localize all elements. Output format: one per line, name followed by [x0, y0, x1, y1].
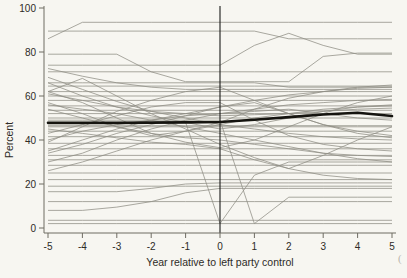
x-tick-label: 1	[252, 241, 258, 252]
x-tick-label: -1	[181, 241, 190, 252]
y-tick-label: 0	[30, 223, 36, 234]
y-tick-label: 20	[25, 179, 37, 190]
x-tick-label: 3	[320, 241, 326, 252]
spaghetti-line-chart: 020406080100 -5-4-3-2-1012345 Percent Ye…	[0, 0, 407, 278]
x-tick-label: 2	[286, 241, 292, 252]
y-tick-label: 80	[25, 47, 37, 58]
x-tick-label: -5	[44, 241, 53, 252]
y-tick-label: 60	[25, 91, 37, 102]
x-tick-label: -3	[112, 241, 121, 252]
x-tick-label: -4	[78, 241, 87, 252]
x-axis-title: Year relative to left party control	[146, 256, 293, 268]
chart-container: 020406080100 -5-4-3-2-1012345 Percent Ye…	[0, 0, 407, 278]
x-tick-label: 5	[389, 241, 395, 252]
y-tick-label: 100	[19, 3, 36, 14]
y-axis-title: Percent	[3, 122, 15, 158]
x-tick-label: 0	[217, 241, 223, 252]
corner-mark: (	[398, 252, 402, 265]
y-tick-label: 40	[25, 135, 37, 146]
x-tick-label: -2	[147, 241, 156, 252]
x-tick-label: 4	[355, 241, 361, 252]
